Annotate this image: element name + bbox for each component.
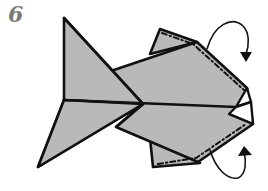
arrowhead-top-icon [240,52,252,62]
tail-lower [38,100,143,167]
tail-upper [64,18,143,104]
arrowhead-bottom-icon [238,146,252,156]
origami-fish-diagram [0,0,268,191]
curved-arrow-top-icon [207,22,248,54]
